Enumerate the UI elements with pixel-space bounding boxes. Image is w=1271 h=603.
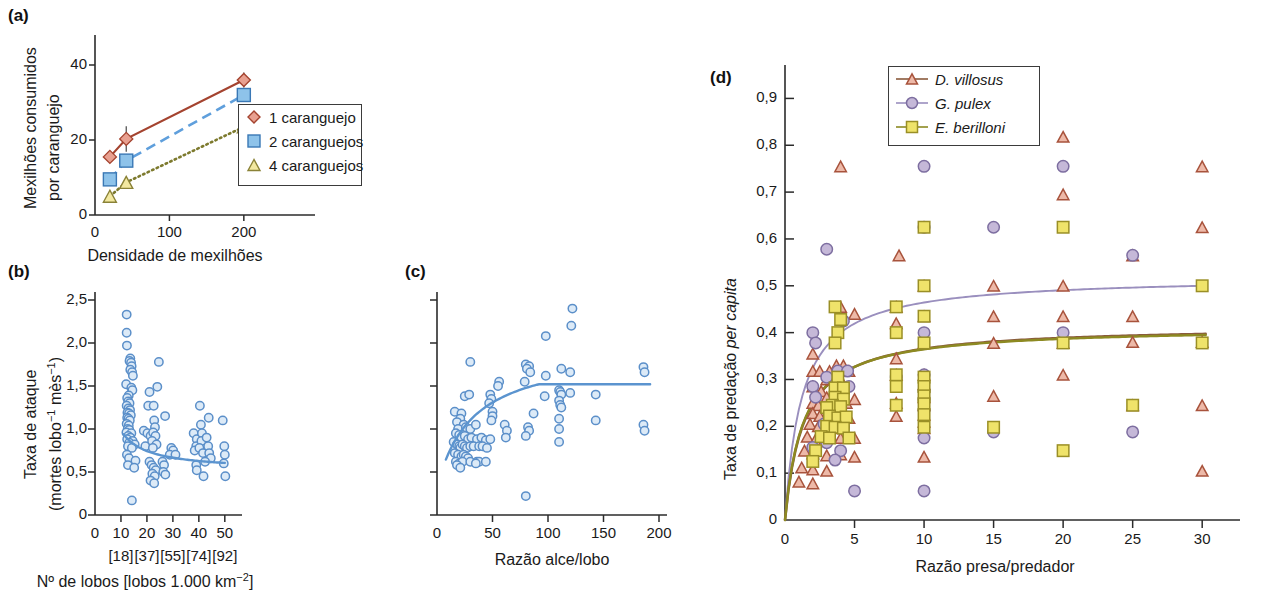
legend-marker-triangle (895, 69, 929, 89)
data-point-triangle (1057, 280, 1069, 291)
panel-d-ytick[interactable]: 0 (733, 510, 777, 527)
data-point-square (824, 432, 836, 444)
data-point-triangle (807, 348, 819, 359)
data-point-triangle (1057, 311, 1069, 322)
data-point-square (840, 411, 852, 423)
panel-d-legend-item[interactable]: E. berilloni (889, 115, 1039, 139)
data-point-triangle (891, 411, 903, 422)
panel-d-plot (0, 0, 1271, 603)
data-point-square (829, 301, 841, 313)
data-point-square (1057, 337, 1069, 349)
panel-d-legend-label: E. berilloni (935, 119, 1005, 136)
panel-d-xtick[interactable]: 5 (833, 530, 877, 547)
data-point-triangle (988, 280, 1000, 291)
data-point-square (918, 221, 930, 233)
data-point-square (918, 310, 930, 322)
data-point-triangle (988, 391, 1000, 402)
data-point-triangle (821, 466, 833, 477)
panel-d-legend-label: D. villosus (935, 71, 1003, 88)
data-point-triangle (1127, 337, 1139, 348)
panel-d-ylabel-text: Taxa de predação (722, 348, 739, 480)
figure-root: 020400100200(a)Mexilhões consumidospor c… (0, 0, 1271, 603)
data-point-circle (849, 485, 861, 497)
data-point-square (1196, 337, 1208, 349)
panel-d-xtick[interactable]: 0 (763, 530, 807, 547)
data-point-triangle (1196, 400, 1208, 411)
data-point-square (918, 337, 930, 349)
data-point-square (810, 445, 822, 457)
data-point-circle (821, 371, 833, 383)
data-point-square (1127, 399, 1139, 411)
data-point-square (918, 409, 930, 421)
data-point-triangle (893, 250, 905, 261)
data-point-circle (918, 432, 930, 444)
data-point-circle (1127, 426, 1139, 438)
data-point-square (891, 381, 903, 393)
data-point-square (807, 456, 819, 468)
panel-d-ylabel-italic: per capita (722, 278, 739, 348)
data-point-circle (918, 485, 930, 497)
panel-d-legend-item[interactable]: G. pulex (889, 91, 1039, 115)
data-point-triangle (849, 394, 861, 405)
panel-d-ytick[interactable]: 0,7 (733, 182, 777, 199)
data-point-circle (821, 244, 833, 256)
data-point-square (1057, 221, 1069, 233)
data-point-triangle (796, 462, 808, 473)
panel-d-xlabel[interactable]: Razão presa/predador (845, 558, 1145, 576)
panel-d-legend-label: G. pulex (935, 95, 991, 112)
data-point-square (1057, 445, 1069, 457)
data-point-triangle (849, 451, 861, 462)
data-point-square (918, 422, 930, 434)
data-point-square (832, 371, 844, 383)
data-point-triangle (1057, 132, 1069, 143)
data-point-triangle (1196, 161, 1208, 172)
data-point-square (918, 398, 930, 410)
data-point-circle (988, 221, 1000, 233)
legend-marker-square (895, 117, 929, 137)
data-point-triangle (1127, 311, 1139, 322)
data-point-square (891, 327, 903, 339)
data-point-square (988, 422, 1000, 434)
data-point-square (829, 337, 841, 349)
panel-d-xtick[interactable]: 30 (1180, 530, 1224, 547)
panel-d-ytick[interactable]: 0,6 (733, 229, 777, 246)
panel-d-xtick[interactable]: 25 (1111, 530, 1155, 547)
data-point-triangle (1196, 222, 1208, 233)
data-point-square (918, 280, 930, 292)
data-point-triangle (988, 311, 1000, 322)
data-point-square (907, 122, 918, 133)
data-point-circle (807, 381, 819, 393)
data-point-square (843, 432, 855, 444)
data-point-triangle (793, 476, 805, 487)
data-point-square (1196, 280, 1208, 292)
panel-d-ylabel[interactable]: Taxa de predação per capita (722, 278, 740, 480)
data-point-triangle (1057, 369, 1069, 380)
data-point-square (891, 301, 903, 313)
panel-d-ytick[interactable]: 0,9 (733, 88, 777, 105)
data-point-circle (1127, 250, 1139, 262)
data-point-square (835, 314, 847, 326)
data-point-triangle (1196, 466, 1208, 477)
data-point-triangle (918, 451, 930, 462)
panel-d-legend-item[interactable]: D. villosus (889, 67, 1039, 91)
data-point-circle (829, 454, 841, 466)
legend-marker-circle (895, 93, 929, 113)
data-point-triangle (807, 478, 819, 489)
panel-d-ytick[interactable]: 0,8 (733, 135, 777, 152)
data-point-square (891, 369, 903, 381)
data-point-circle (810, 337, 822, 349)
data-point-triangle (802, 431, 814, 442)
data-point-circle (918, 161, 930, 173)
data-point-triangle (1057, 189, 1069, 200)
data-point-circle (1057, 161, 1069, 173)
data-point-circle (810, 392, 822, 404)
panel-d-legend[interactable]: D. villosusG. pulexE. berilloni (888, 66, 1040, 146)
data-point-triangle (849, 309, 861, 320)
panel-d-xtick[interactable]: 10 (902, 530, 946, 547)
data-point-circle (907, 98, 918, 109)
data-point-square (891, 399, 903, 411)
data-point-triangle (835, 161, 847, 172)
panel-d-label[interactable]: (d) (710, 68, 732, 88)
panel-d-xtick[interactable]: 20 (1041, 530, 1085, 547)
panel-d-xtick[interactable]: 15 (972, 530, 1016, 547)
